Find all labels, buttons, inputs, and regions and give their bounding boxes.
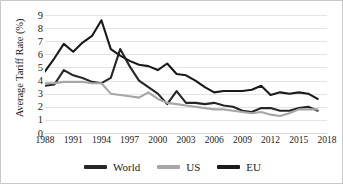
legend-label: US (186, 161, 200, 173)
y-axis-tick: 2 (23, 101, 43, 112)
y-axis-tick: 8 (23, 23, 43, 34)
series-lines (45, 15, 327, 133)
legend-entry-world[interactable]: World (84, 161, 140, 173)
legend-entry-us[interactable]: US (157, 161, 200, 173)
plot-area (45, 15, 327, 133)
legend-swatch-icon (157, 165, 180, 169)
y-axis-tick: 7 (23, 36, 43, 47)
legend-label: EU (246, 161, 261, 173)
x-axis-tick: 2018 (318, 135, 337, 145)
y-axis-tick-labels: 9876543210 (23, 9, 43, 139)
chart-legend: WorldUSEU (1, 158, 343, 176)
chart-figure: Average Tariff Rate (%) 9876543210 19881… (0, 0, 343, 184)
x-axis-tick: 2012 (261, 135, 280, 145)
y-axis-tick: 1 (23, 114, 43, 125)
x-axis-tick: 2015 (289, 135, 308, 145)
legend-swatch-icon (84, 165, 107, 169)
x-axis-tick: 2003 (177, 135, 196, 145)
x-axis-tick: 2009 (233, 135, 252, 145)
x-axis-tick: 1997 (120, 135, 139, 145)
x-axis-tick: 2006 (205, 135, 224, 145)
y-axis-tick: 3 (23, 88, 43, 99)
y-axis-tick: 6 (23, 49, 43, 60)
x-axis-tick: 1991 (64, 135, 83, 145)
x-axis-tick: 2000 (148, 135, 167, 145)
legend-entry-eu[interactable]: EU (217, 161, 261, 173)
y-axis-tick: 5 (23, 62, 43, 73)
y-axis-tick: 9 (23, 10, 43, 21)
y-axis-tick: 4 (23, 75, 43, 86)
legend-swatch-icon (217, 165, 240, 169)
series-line-eu (45, 20, 318, 99)
series-line-world (45, 49, 318, 112)
legend-label: World (113, 161, 140, 173)
gridline (45, 133, 327, 134)
x-axis-tick: 1994 (92, 135, 111, 145)
x-axis-tick-labels: 1988199119941997200020032006200920122015… (45, 135, 327, 151)
x-axis-tick: 1988 (36, 135, 55, 145)
